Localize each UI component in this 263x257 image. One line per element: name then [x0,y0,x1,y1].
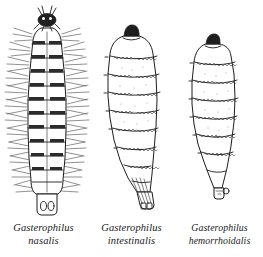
specimen-3-body [192,44,235,188]
specimen-1-nasalis [5,6,89,215]
specimen-1-head [34,6,60,31]
caption-2-genus: Gasterophilus [88,222,175,235]
caption-2-species: intestinalis [88,235,175,248]
caption-1-genus: Gasterophilus [0,222,87,235]
specimen-3-hemorrhoidalis [189,34,238,199]
specimen-3-posterior-spiracles [214,188,229,199]
caption-3-species: hemorrhoidalis [176,235,263,248]
caption-1-species: nasalis [0,235,87,248]
caption-specimen-1: Gasterophilus nasalis [0,222,87,247]
gasterophilus-larvae-figure: .ol { fill:#ffffff; stroke:#1d1d1d; stro… [0,0,263,257]
caption-3-genus: Gasterophilus [176,222,263,235]
caption-specimen-3: Gasterophilus hemorrhoidalis [176,222,263,247]
caption-row: Gasterophilus nasalis Gasterophilus inte… [0,222,263,257]
caption-specimen-2: Gasterophilus intestinalis [88,222,175,247]
illustration-plate: .ol { fill:#ffffff; stroke:#1d1d1d; stro… [0,0,263,257]
specimen-2-intestinalis [104,25,160,209]
specimen-1-posterior-spiracles [37,194,57,215]
